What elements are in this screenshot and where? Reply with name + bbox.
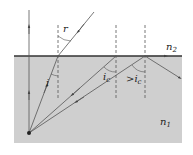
arrow-icon: [78, 24, 84, 32]
medium-n1-region: [14, 56, 182, 143]
medium-label-n2: n2: [166, 41, 177, 54]
angle-arc-r: [58, 36, 71, 41]
light-source-point: [27, 131, 31, 135]
total-internal-reflection-diagram: r i ic >ic n2 n1: [0, 0, 193, 155]
angle-label-i: i: [46, 77, 49, 88]
refracted-ray: [58, 12, 94, 56]
angle-label-r: r: [63, 23, 69, 34]
